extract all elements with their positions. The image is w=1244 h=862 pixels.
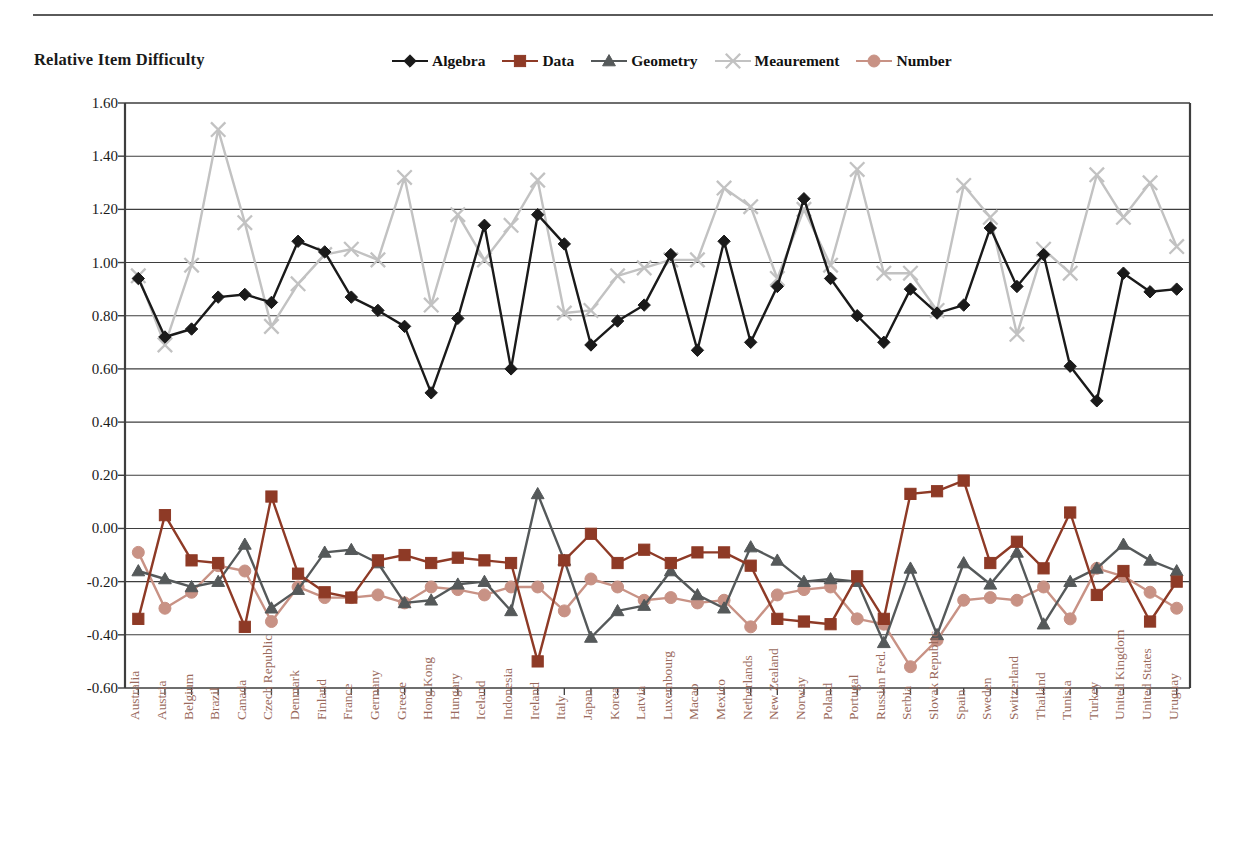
x-tick-label: Denmark [287, 670, 303, 720]
x-tick-label: Italy [553, 695, 569, 720]
x-tick-label: Slovak Republic [926, 631, 942, 720]
x-tick-label: Latvia [633, 686, 649, 720]
x-tick-label: Australia [127, 671, 143, 720]
x-tick-label: Turkey [1086, 682, 1102, 720]
x-tick-label: France [340, 684, 356, 720]
x-tick-label: Canada [234, 680, 250, 720]
x-tick-label: Switzerland [1006, 656, 1022, 720]
x-tick-label: Netherlands [740, 655, 756, 720]
x-tick-label: Germany [367, 670, 383, 720]
x-tick-label: New Zealand [766, 648, 782, 720]
x-tick-label: Brazil [207, 687, 223, 720]
x-tick-label: United Kingdom [1112, 630, 1128, 720]
x-tick-label: Spain [953, 689, 969, 720]
x-tick-label: Luxembourg [660, 651, 676, 720]
x-tick-label: Hong Kong [420, 657, 436, 720]
x-tick-label: Uruguay [1166, 673, 1182, 720]
chart-plot-area: 1.601.401.201.000.800.600.400.200.00-0.2… [0, 0, 1244, 862]
x-tick-label: Greece [394, 682, 410, 720]
x-tick-label: Portugal [846, 675, 862, 720]
x-tick-label: Iceland [473, 681, 489, 720]
x-axis-labels: AustraliaAustriaBelgiumBrazilCanadaCzech… [0, 0, 1244, 862]
x-tick-label: Japan [580, 690, 596, 721]
x-tick-label: Belgium [181, 674, 197, 720]
x-tick-label: Tunisia [1059, 680, 1075, 720]
x-tick-label: Korea [607, 687, 623, 720]
x-tick-label: Finland [314, 679, 330, 720]
x-tick-label: Sweden [979, 678, 995, 720]
x-tick-label: Ireland [527, 682, 543, 720]
x-tick-label: Hungary [447, 673, 463, 720]
x-tick-label: Macao [686, 684, 702, 720]
x-tick-label: Russian Fed. [873, 651, 889, 720]
x-tick-label: United States [1139, 648, 1155, 720]
x-tick-label: Poland [820, 683, 836, 720]
x-tick-label: Indonesia [500, 668, 516, 720]
x-tick-label: Czech Republic [260, 635, 276, 720]
x-tick-label: Thailand [1033, 672, 1049, 720]
x-tick-label: Austria [154, 681, 170, 720]
x-tick-label: Serbia [899, 686, 915, 720]
x-tick-label: Norway [793, 677, 809, 720]
x-tick-label: Mexico [713, 679, 729, 720]
